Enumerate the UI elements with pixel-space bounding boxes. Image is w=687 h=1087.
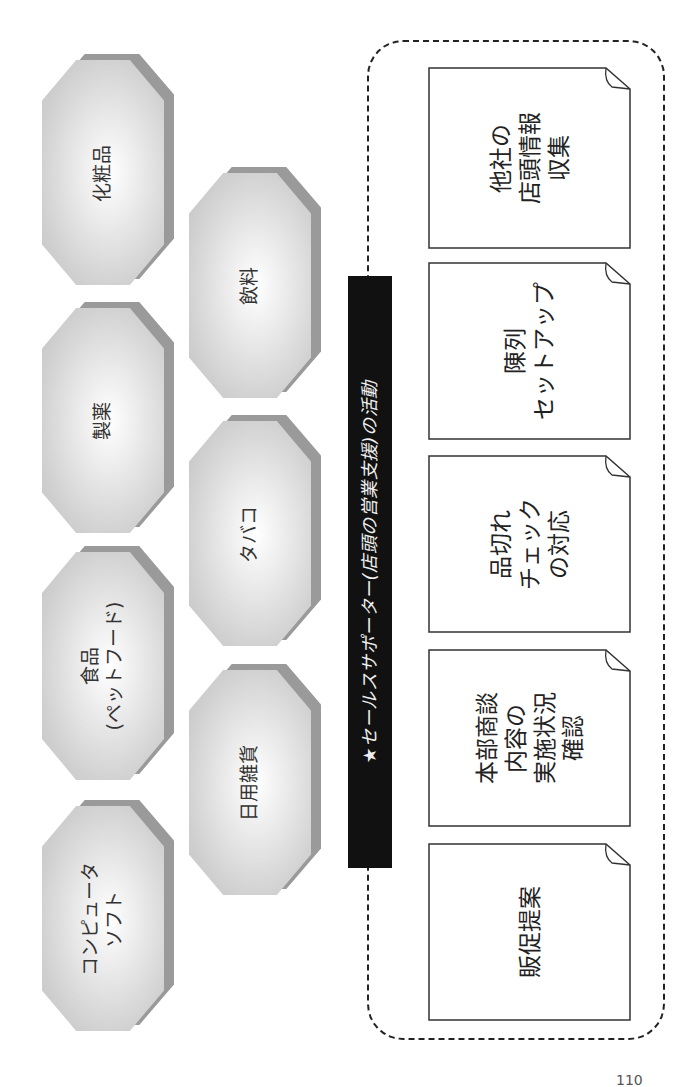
activity-promotion-proposal: 販促提案 [428, 843, 631, 1021]
activity-label: 品切れ チェック の対応 [486, 498, 572, 590]
category-food: 食品 (ペットフード) [42, 552, 174, 780]
category-label: タバコ [238, 505, 262, 562]
category-pharma: 製薬 [42, 308, 174, 533]
activity-stockout-check: 品切れ チェック の対応 [428, 455, 631, 633]
category-label: 製薬 [91, 402, 115, 440]
activity-hq-negotiation-check: 本部商談 内容の 実施状況 確認 [428, 649, 631, 827]
category-label: 化粧品 [91, 144, 115, 201]
category-label: コンピュータ ソフト [79, 862, 127, 976]
activity-label: 陳列 セットアップ [501, 282, 559, 420]
category-beverages: 飲料 [189, 173, 321, 398]
category-daily-goods: 日用雑貨 [189, 670, 321, 895]
page-number: 110 [616, 1072, 643, 1087]
category-tobacco: タバコ [189, 421, 321, 646]
activity-competitor-info: 他社の 店頭情報 収集 [428, 67, 631, 249]
activity-display-setup: 陳列 セットアップ [428, 262, 631, 440]
category-label: 食品 (ペットフード) [79, 602, 127, 731]
activity-label: 本部商談 内容の 実施状況 確認 [472, 692, 587, 784]
sales-supporter-banner: ★セールスサポーター(店頭の営業支援)の活動 [348, 276, 392, 868]
activity-label: 販促提案 [515, 886, 544, 978]
activity-label: 他社の 店頭情報 収集 [486, 112, 572, 204]
category-cosmetics: 化粧品 [42, 60, 174, 285]
category-software: コンピュータ ソフト [42, 806, 174, 1031]
star-icon: ★ [359, 747, 380, 764]
category-label: 飲料 [238, 267, 262, 305]
banner-label: セールスサポーター(店頭の営業支援)の活動 [359, 380, 380, 747]
category-label: 日用雑貨 [238, 745, 262, 821]
banner-text: ★セールスサポーター(店頭の営業支援)の活動 [359, 380, 382, 763]
